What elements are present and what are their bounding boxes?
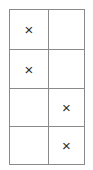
grid-table: × × × [9,9,85,165]
cell-r3c1[interactable] [10,89,49,127]
x-mark-icon: × [10,62,48,77]
table-row: × [10,10,85,50]
table-row: × [10,50,85,89]
cell-r4c1[interactable] [10,127,49,165]
cell-r3c2[interactable]: × [49,89,85,127]
x-mark-icon: × [49,100,84,115]
table-row: × [10,127,85,165]
cell-r4c2[interactable]: × [49,127,85,165]
x-mark-icon: × [10,22,48,37]
grid-table-body: × × × [10,10,85,165]
table-row: × [10,89,85,127]
cell-r1c2[interactable] [49,10,85,50]
cell-r2c2[interactable] [49,50,85,89]
cell-r1c1[interactable]: × [10,10,49,50]
page-root: × × × [0,0,93,170]
cell-r2c1[interactable]: × [10,50,49,89]
x-mark-icon: × [49,138,84,153]
